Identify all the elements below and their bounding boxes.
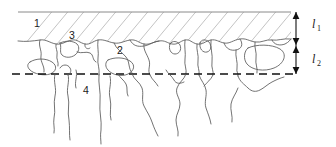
dimension-l2-subscript: 2 xyxy=(317,59,321,68)
zone2-pocket-right xyxy=(244,45,284,70)
figure-container: 1 2 3 4 l 1 l 2 xyxy=(0,0,336,147)
zone-label-3: 3 xyxy=(69,29,75,41)
cross-section-diagram: 1 2 3 4 l 1 l 2 xyxy=(0,0,336,147)
dimension-label-l2: l 2 xyxy=(312,52,321,68)
dimension-arrow-bottom xyxy=(293,67,300,74)
zone2-contour-j xyxy=(197,44,199,75)
cracks-zone-4 xyxy=(54,70,284,144)
protrusion-zone-3 xyxy=(60,41,79,57)
dimension-arrow-mid-upper xyxy=(293,38,300,45)
zone2-contour-e xyxy=(98,40,99,75)
zone-label-2: 2 xyxy=(117,44,123,56)
zone2-contour-n xyxy=(255,42,257,73)
dimension-arrow-top xyxy=(293,12,300,19)
zone2-contour-a xyxy=(39,40,44,72)
zone2-contour-b xyxy=(56,44,58,66)
feature-below-datum-center xyxy=(118,74,128,96)
dimension-label-l1: l 1 xyxy=(312,17,321,33)
dimension-l1-subscript: 1 xyxy=(317,24,321,33)
zone2-contour-i xyxy=(185,40,186,74)
zone2-contour-c xyxy=(77,52,96,62)
zone-label-4: 4 xyxy=(83,84,89,96)
hatch-background xyxy=(18,11,292,45)
dimension-arrow-mid-lower xyxy=(293,46,300,53)
zone2-contour-k xyxy=(211,40,213,75)
dimension-l1-symbol: l xyxy=(312,17,316,31)
dimension-l2-symbol: l xyxy=(312,52,316,66)
zone2-contour-m xyxy=(236,50,238,76)
zone2-contour-d xyxy=(85,44,90,49)
zone2-contour-h xyxy=(144,44,150,75)
zone-label-1: 1 xyxy=(34,17,40,29)
dimension-group xyxy=(293,12,300,74)
